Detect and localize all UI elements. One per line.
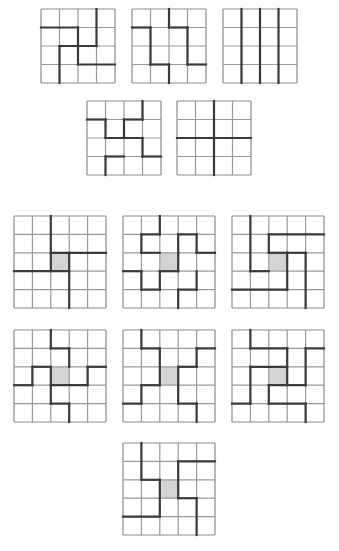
- shaded-center-cell: [51, 367, 69, 385]
- grid-5x5: [123, 443, 215, 535]
- shaded-center-cell: [269, 253, 287, 271]
- shaded-center-cell: [269, 367, 287, 385]
- grid-5x5: [232, 330, 324, 422]
- grid-5x5: [123, 216, 215, 308]
- shaded-center-cell: [160, 480, 178, 498]
- shaded-center-cell: [160, 367, 178, 385]
- grid-5x5: [123, 330, 215, 422]
- grid-5x5: [232, 216, 324, 308]
- shaded-center-cell: [160, 253, 178, 271]
- grid-4x4: [41, 9, 115, 83]
- grid-4x4: [223, 9, 297, 83]
- grid-5x5: [14, 330, 106, 422]
- grid-4x4: [177, 101, 251, 175]
- grid-4x4: [87, 101, 161, 175]
- shaded-center-cell: [51, 253, 69, 271]
- grid-4x4: [132, 9, 206, 83]
- grid-5x5: [14, 216, 106, 308]
